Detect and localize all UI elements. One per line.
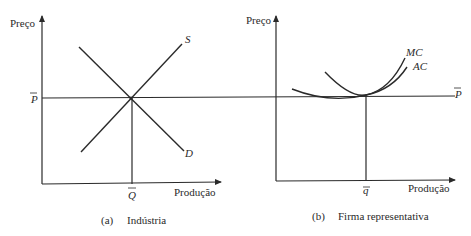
mc-label: MC [405, 46, 423, 58]
svg-text:Q: Q [128, 189, 136, 201]
x-axis-label: Produção [174, 186, 216, 198]
panel-industry: Preço Produção P Q S D (a) Indústria [10, 16, 221, 227]
demand-label: D [184, 147, 193, 159]
svg-text:P: P [454, 88, 462, 100]
ac-label: AC [412, 60, 428, 72]
quantity-label-industry: Q [128, 188, 136, 201]
panel-firm: Preço Produção MC AC P q (b) Firma repre… [246, 14, 462, 223]
caption-industry: Indústria [127, 214, 166, 226]
y-axis-label: Preço [246, 14, 272, 26]
price-label-industry: P [30, 93, 38, 105]
average-cost-curve [292, 67, 407, 98]
x-axis-label: Produção [408, 182, 450, 194]
caption-letter-a: (a) [101, 214, 114, 227]
market-equilibrium-diagram: Preço Produção P Q S D (a) Indústria Pre… [0, 0, 471, 236]
quantity-label-firm: q [363, 184, 370, 196]
equilibrium-point [129, 96, 132, 99]
svg-text:P: P [30, 93, 38, 105]
caption-letter-b: (b) [312, 210, 325, 223]
svg-text:q: q [363, 184, 369, 196]
caption-firm: Firma representativa [338, 210, 429, 222]
y-axis-label: Preço [10, 17, 36, 29]
supply-label: S [185, 33, 191, 45]
marginal-cost-curve [325, 58, 405, 95]
price-line [42, 96, 455, 98]
price-label-firm: P [454, 88, 462, 100]
